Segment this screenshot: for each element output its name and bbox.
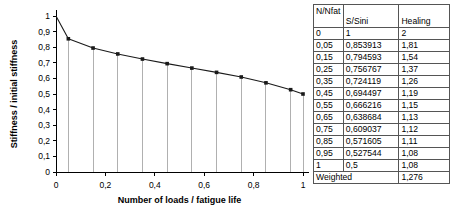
figure-root: 00,20,40,60,81 00,10,20,30,40,50,60,70,8… bbox=[0, 0, 453, 214]
table-body: 0120,050,8539131,810,150,7945931,540,250… bbox=[314, 28, 450, 172]
cell-s-over-sini: 0,5 bbox=[343, 160, 399, 172]
cell-n-over-nfat: 0,35 bbox=[314, 76, 344, 88]
series-data-point bbox=[91, 46, 95, 50]
x-axis-title: Number of loads / fatigue life bbox=[118, 195, 242, 205]
y-tick-label: 0,3 bbox=[38, 120, 50, 130]
y-tick-label: 0,7 bbox=[38, 58, 50, 68]
cell-n-over-nfat: 0,85 bbox=[314, 136, 344, 148]
x-tick-label: 0,2 bbox=[99, 180, 111, 190]
cell-healing: 1,12 bbox=[399, 124, 450, 136]
axes-group bbox=[53, 10, 309, 176]
column-header-s-over-sini: S/Sini bbox=[343, 5, 399, 28]
series-data-point bbox=[239, 75, 243, 79]
series-data-point bbox=[289, 88, 293, 92]
cell-healing: 1,08 bbox=[399, 160, 450, 172]
y-tick-label: 0,2 bbox=[38, 136, 50, 146]
y-tick-labels: 00,10,20,30,40,50,60,70,80,91 bbox=[38, 11, 50, 177]
cell-s-over-sini: 0,638684 bbox=[343, 112, 399, 124]
table-row-weighted: Weighted 1,276 bbox=[314, 172, 450, 184]
y-tick-label: 1 bbox=[45, 11, 50, 21]
column-header-healing: Healing bbox=[399, 5, 450, 28]
y-tick-label: 0,6 bbox=[38, 73, 50, 83]
series-data-point bbox=[141, 57, 145, 61]
cell-s-over-sini: 0,527544 bbox=[343, 148, 399, 160]
series-data-point bbox=[215, 71, 219, 75]
cell-s-over-sini: 0,666216 bbox=[343, 100, 399, 112]
y-tick-label: 0,5 bbox=[38, 89, 50, 99]
series-markers-group bbox=[67, 37, 305, 96]
series-data-point bbox=[67, 37, 71, 41]
cell-s-over-sini: 0,694497 bbox=[343, 88, 399, 100]
cell-n-over-nfat: 0,45 bbox=[314, 88, 344, 100]
table-row: 0,150,7945931,54 bbox=[314, 52, 450, 64]
cell-n-over-nfat: 0 bbox=[314, 28, 344, 40]
series-data-point bbox=[301, 92, 305, 96]
table-row: 10,51,08 bbox=[314, 160, 450, 172]
cell-n-over-nfat: 0,65 bbox=[314, 112, 344, 124]
cell-healing: 1,08 bbox=[399, 148, 450, 160]
table-row: 0,350,7241191,26 bbox=[314, 76, 450, 88]
stiffness-fatigue-chart: 00,20,40,60,81 00,10,20,30,40,50,60,70,8… bbox=[0, 0, 312, 214]
y-tick-label: 0,8 bbox=[38, 42, 50, 52]
table-row: 0,750,6090371,12 bbox=[314, 124, 450, 136]
cell-n-over-nfat: 0,05 bbox=[314, 40, 344, 52]
cell-healing: 1,11 bbox=[399, 136, 450, 148]
cell-n-over-nfat: 0,55 bbox=[314, 100, 344, 112]
y-axis-title: Stiffness / initial stiffness bbox=[9, 40, 19, 149]
cell-n-over-nfat: 0,95 bbox=[314, 148, 344, 160]
cell-s-over-sini: 0,794593 bbox=[343, 52, 399, 64]
cell-s-over-sini: 0,853913 bbox=[343, 40, 399, 52]
cell-n-over-nfat: 0,15 bbox=[314, 52, 344, 64]
table-row: 0,050,8539131,81 bbox=[314, 40, 450, 52]
cell-s-over-sini: 0,571605 bbox=[343, 136, 399, 148]
y-tick-label: 0,4 bbox=[38, 105, 50, 115]
data-table-container: N/Nfat S/Sini Healing 0120,050,8539131,8… bbox=[313, 4, 450, 184]
series-data-point bbox=[264, 81, 268, 85]
healing-data-table: N/Nfat S/Sini Healing 0120,050,8539131,8… bbox=[313, 4, 450, 184]
cell-n-over-nfat: 1 bbox=[314, 160, 344, 172]
table-header: N/Nfat S/Sini Healing bbox=[314, 5, 450, 28]
x-tick-labels: 00,20,40,60,81 bbox=[54, 180, 306, 190]
y-tick-label: 0 bbox=[45, 167, 50, 177]
cell-healing: 1,54 bbox=[399, 52, 450, 64]
cell-n-over-nfat: 0,25 bbox=[314, 64, 344, 76]
cell-s-over-sini: 0,756767 bbox=[343, 64, 399, 76]
table-row: 0,550,6662161,15 bbox=[314, 100, 450, 112]
cell-healing: 1,19 bbox=[399, 88, 450, 100]
column-header-n-over-nfat: N/Nfat bbox=[314, 5, 344, 28]
series-data-point bbox=[165, 62, 169, 66]
table-row: 012 bbox=[314, 28, 450, 40]
series-data-point bbox=[190, 66, 194, 70]
drop-lines-group bbox=[68, 39, 303, 172]
cell-healing: 1,81 bbox=[399, 40, 450, 52]
series-data-point bbox=[116, 52, 120, 56]
cell-s-over-sini: 1 bbox=[343, 28, 399, 40]
chart-canvas: 00,20,40,60,81 00,10,20,30,40,50,60,70,8… bbox=[0, 0, 312, 214]
x-tick-label: 1 bbox=[301, 180, 306, 190]
table-row: 0,250,7567671,37 bbox=[314, 64, 450, 76]
cell-healing: 1,15 bbox=[399, 100, 450, 112]
x-tick-label: 0,6 bbox=[198, 180, 210, 190]
table-footer: Weighted 1,276 bbox=[314, 172, 450, 184]
weighted-label: Weighted bbox=[314, 172, 399, 184]
y-tick-label: 0,9 bbox=[38, 27, 50, 37]
table-row: 0,450,6944971,19 bbox=[314, 88, 450, 100]
weighted-value: 1,276 bbox=[399, 172, 450, 184]
y-tick-label: 0,1 bbox=[38, 151, 50, 161]
table-row: 0,850,5716051,11 bbox=[314, 136, 450, 148]
cell-s-over-sini: 0,724119 bbox=[343, 76, 399, 88]
table-row: 0,650,6386841,13 bbox=[314, 112, 450, 124]
x-tick-label: 0,8 bbox=[248, 180, 260, 190]
cell-s-over-sini: 0,609037 bbox=[343, 124, 399, 136]
cell-healing: 1,37 bbox=[399, 64, 450, 76]
cell-healing: 2 bbox=[399, 28, 450, 40]
table-header-row: N/Nfat S/Sini Healing bbox=[314, 5, 450, 28]
x-tick-label: 0,4 bbox=[149, 180, 161, 190]
cell-healing: 1,26 bbox=[399, 76, 450, 88]
x-tick-label: 0 bbox=[54, 180, 59, 190]
cell-n-over-nfat: 0,75 bbox=[314, 124, 344, 136]
cell-healing: 1,13 bbox=[399, 112, 450, 124]
table-row: 0,950,5275441,08 bbox=[314, 148, 450, 160]
